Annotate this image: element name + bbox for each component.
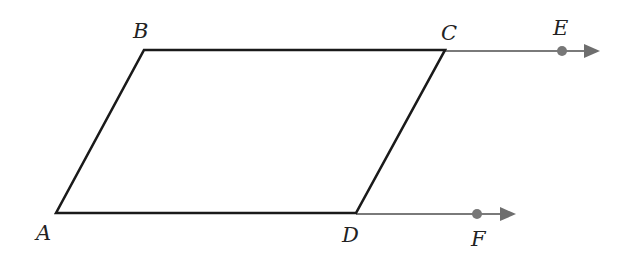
point-e [557, 46, 567, 56]
point-f [472, 209, 482, 219]
label-a: A [34, 221, 51, 245]
label-f: F [470, 227, 487, 251]
ray-df-arrowhead-icon [500, 207, 516, 221]
label-c: C [441, 21, 457, 45]
ray-ce-arrowhead-icon [584, 44, 600, 58]
parallelogram-abcd [56, 50, 445, 213]
geometry-diagram: A B C D E F [0, 0, 627, 260]
label-e: E [552, 16, 568, 40]
label-d: D [341, 223, 359, 247]
label-b: B [132, 19, 148, 43]
